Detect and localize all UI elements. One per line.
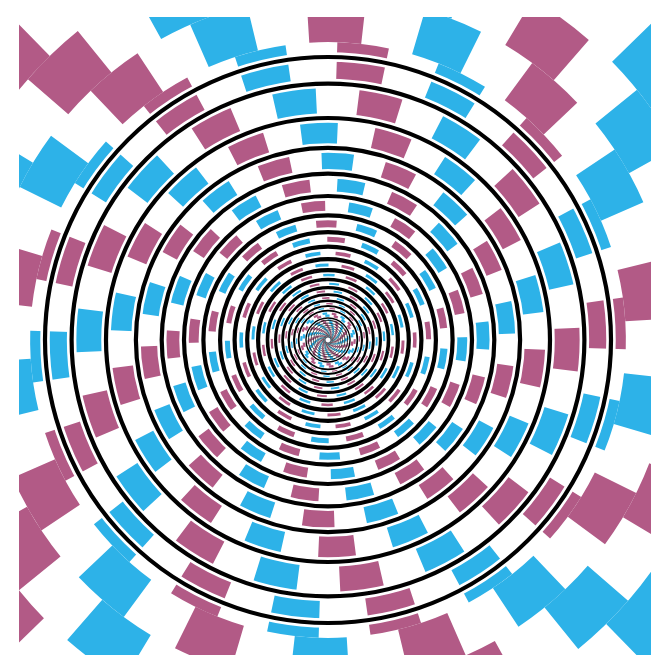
fraser-spiral-illusion-canvas — [0, 0, 661, 672]
illusion-figure: Fraser spiral optical illusion Concentri… — [0, 0, 661, 672]
